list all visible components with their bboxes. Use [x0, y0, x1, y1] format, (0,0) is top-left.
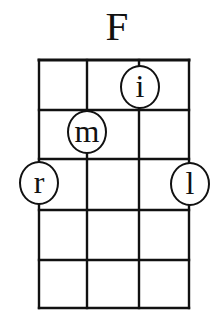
- finger-label: m: [75, 115, 100, 147]
- finger-marker-index: i: [120, 65, 160, 109]
- finger-label: i: [136, 70, 145, 102]
- finger-label: l: [186, 167, 195, 199]
- finger-marker-little: l: [170, 162, 210, 206]
- finger-marker-middle: m: [67, 110, 107, 154]
- finger-label: r: [34, 166, 45, 198]
- finger-marker-ring: r: [19, 161, 59, 205]
